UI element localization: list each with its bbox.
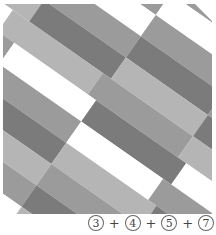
stripe-pattern-svg bbox=[3, 4, 212, 214]
stripe-pattern-figure bbox=[3, 4, 212, 214]
plus-operator: + bbox=[107, 216, 122, 231]
circled-number-5: 5 bbox=[161, 215, 177, 231]
circled-number-4: 4 bbox=[125, 215, 141, 231]
circled-number-7: 7 bbox=[198, 215, 214, 231]
plus-operator: + bbox=[180, 216, 195, 231]
plus-operator: + bbox=[144, 216, 159, 231]
circled-number-3: 3 bbox=[88, 215, 104, 231]
caption-equation: 3 + 4 + 5 + 7 bbox=[88, 213, 214, 233]
